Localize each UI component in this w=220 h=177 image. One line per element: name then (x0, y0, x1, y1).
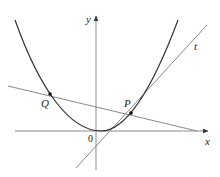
x-axis-label: x (204, 135, 210, 147)
point-p-dot (129, 111, 133, 115)
tangent-label: t (194, 40, 198, 52)
point-q-label: Q (41, 97, 49, 109)
point-p-label: P (123, 97, 131, 109)
point-q-dot (48, 92, 52, 96)
origin-label: 0 (88, 133, 93, 144)
parabola-tangent-diagram: y x 0 P Q t (0, 0, 220, 177)
y-axis-label: y (85, 13, 91, 25)
secant-line (8, 86, 197, 131)
